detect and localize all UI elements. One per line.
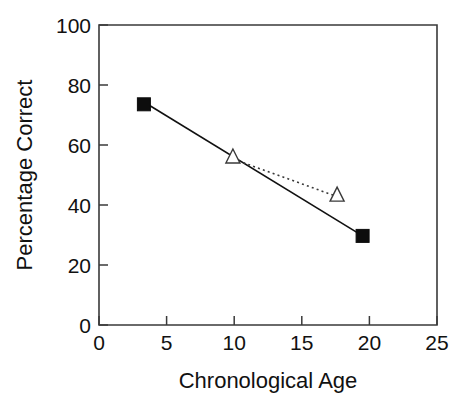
y-tick-label-40: 40 (68, 194, 91, 217)
series-filled-square (137, 98, 369, 243)
x-tick-label-20: 20 (358, 331, 381, 354)
y-tick-label-100: 100 (56, 14, 91, 37)
y-tick-label-20: 20 (68, 254, 91, 277)
axis-frame (99, 25, 437, 325)
x-tick-label-15: 15 (290, 331, 313, 354)
data-point-triangle-1 (226, 149, 240, 163)
x-axis-title: Chronological Age (179, 368, 358, 393)
x-tick-label-25: 25 (425, 331, 448, 354)
x-tick-labels: 0 5 10 15 20 25 (93, 331, 449, 354)
y-tick-label-60: 60 (68, 134, 91, 157)
y-axis-ticks (99, 25, 108, 325)
x-tick-label-0: 0 (93, 331, 105, 354)
x-tick-label-10: 10 (223, 331, 246, 354)
y-tick-label-80: 80 (68, 74, 91, 97)
series-line-dotted (238, 161, 333, 195)
y-axis-title: Percentage Correct (12, 80, 37, 271)
y-tick-labels: 100 80 60 40 20 0 (56, 14, 91, 337)
chart-figure: 100 80 60 40 20 0 0 5 10 15 20 25 Chrono… (0, 0, 464, 407)
series-line-solid (148, 105, 362, 236)
y-tick-label-0: 0 (79, 314, 91, 337)
data-point-square-1 (137, 98, 150, 111)
data-point-square-2 (356, 229, 369, 242)
x-tick-label-5: 5 (161, 331, 173, 354)
series-open-triangle (226, 149, 344, 201)
x-axis-ticks (99, 316, 437, 325)
chart-plot-area: 100 80 60 40 20 0 0 5 10 15 20 25 Chrono… (0, 0, 464, 407)
